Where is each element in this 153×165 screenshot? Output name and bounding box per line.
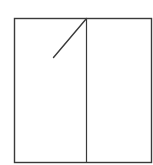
left-panel <box>15 19 87 163</box>
diagram-canvas <box>0 0 153 165</box>
diagram-svg <box>0 0 153 165</box>
outer-frame <box>15 19 152 163</box>
right-panel <box>87 19 152 163</box>
diagonal-stroke <box>54 19 87 58</box>
